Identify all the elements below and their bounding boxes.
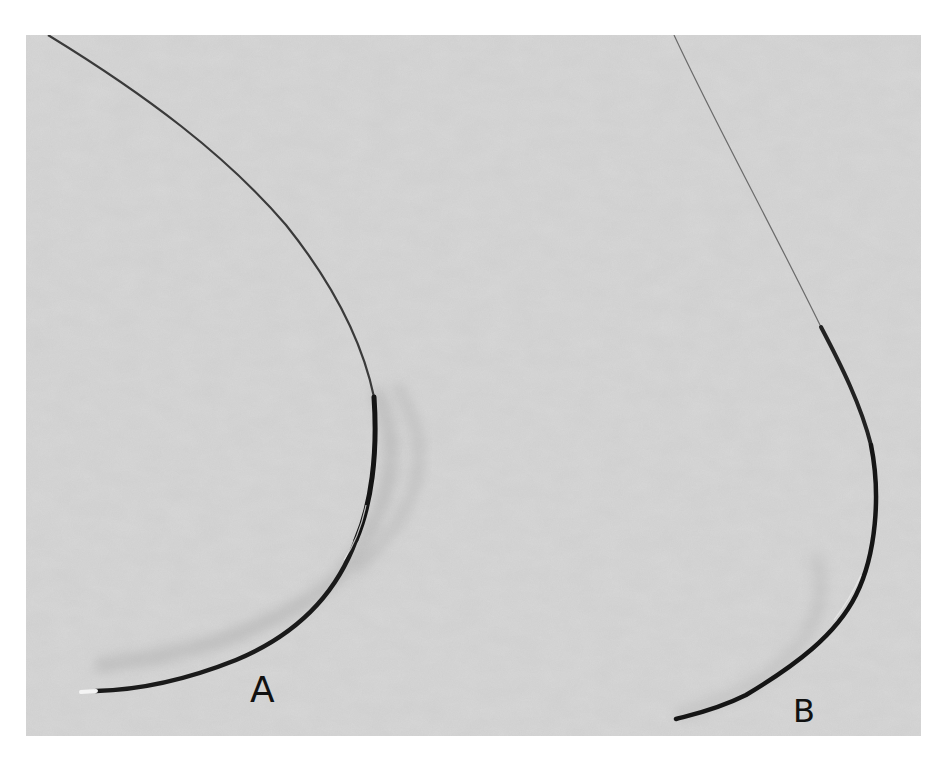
- needle-illustration: [26, 35, 921, 736]
- photograph: A B: [26, 35, 921, 736]
- label-a: A: [250, 672, 275, 708]
- background-grain: [26, 35, 921, 736]
- needle-a-tip-glint: [81, 691, 96, 692]
- label-b: B: [793, 695, 815, 727]
